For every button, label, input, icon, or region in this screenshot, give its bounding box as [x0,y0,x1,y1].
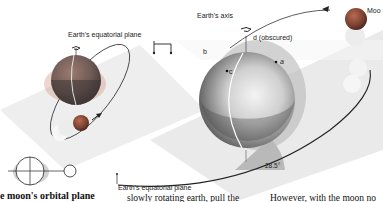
body-text-col2: However, with the moon no [270,194,376,202]
right-rotation-arrow-icon [241,28,251,32]
angle-label: 28.5° [265,163,280,170]
point-c-label: c [229,68,233,75]
left-plane-label: Earth's equatorial plane [68,31,141,38]
moon-orbit-arrow-icon [322,6,329,12]
point-b-label: b [203,48,207,55]
diagram: Earth's equatorial plane e moon's orbita… [0,0,383,202]
right-moon [345,8,367,30]
left-moon [73,115,89,131]
moon-label: Moo [367,7,381,14]
schematic-moon-icon [64,165,76,177]
point-c-dot [226,70,229,73]
earth-axis-label: Earth's axis [197,12,233,19]
bracket-icon [154,41,171,53]
body-text-col1: slowly rotating earth, pull the [127,194,239,202]
point-a-label: a [280,58,284,65]
left-caption: e moon's orbital plane [0,191,95,201]
diagram-graphics [0,0,383,202]
point-d-label: d (obscured) [253,34,292,41]
point-a-dot [275,61,278,64]
right-plane-label: Earth's equatorial plane [118,184,191,191]
